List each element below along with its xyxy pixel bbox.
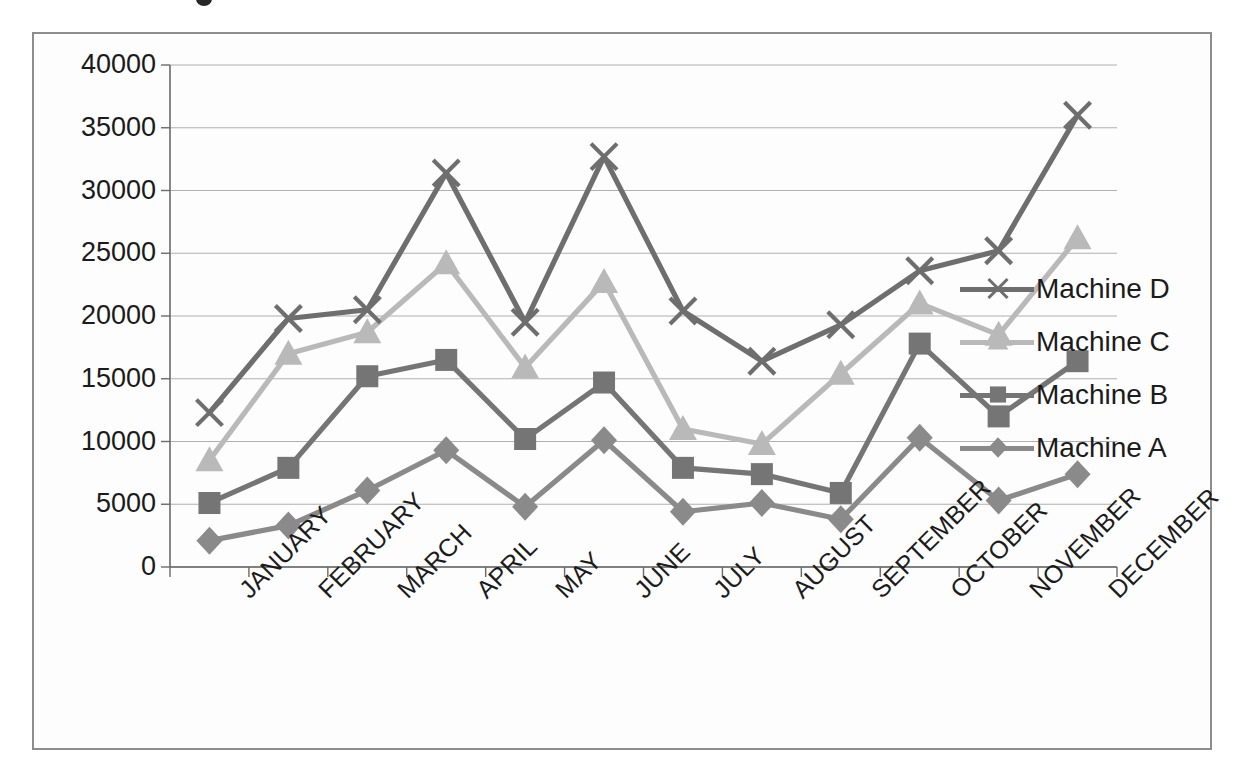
data-point-marker (749, 489, 775, 517)
data-point-marker (909, 333, 931, 355)
data-point-marker (590, 268, 618, 293)
legend-marker-icon (960, 435, 1034, 461)
legend-item-machine-a[interactable]: Machine A (960, 421, 1210, 474)
data-point-marker (593, 372, 615, 394)
legend-item-machine-d[interactable]: Machine D (960, 262, 1210, 315)
y-tick-label: 40000 (28, 51, 156, 78)
data-point-marker (990, 386, 1006, 402)
data-point-marker (672, 457, 694, 479)
series-machine-a (196, 424, 1090, 555)
legend-marker-icon (960, 276, 1034, 302)
data-point-marker (906, 289, 934, 314)
data-point-marker (988, 437, 1007, 458)
data-point-marker (354, 476, 380, 504)
data-point-marker (669, 415, 697, 440)
legend-item-label: Machine A (1036, 432, 1167, 464)
y-tick-label: 30000 (28, 177, 156, 204)
legend-item-label: Machine B (1036, 379, 1168, 411)
y-tick-label: 0 (28, 553, 156, 580)
chart-legend: Machine DMachine CMachine BMachine A (960, 262, 1210, 474)
data-point-marker (830, 482, 852, 504)
data-point-marker (277, 457, 299, 479)
y-tick-label: 10000 (28, 428, 156, 455)
legend-item-label: Machine C (1036, 326, 1170, 358)
legend-item-machine-c[interactable]: Machine C (960, 315, 1210, 368)
legend-marker-icon (960, 329, 1034, 355)
data-point-marker (356, 365, 378, 387)
data-point-marker (751, 463, 773, 485)
data-point-marker (198, 492, 220, 514)
data-point-marker (988, 331, 1009, 349)
data-point-marker (196, 527, 222, 555)
y-tick-label: 5000 (28, 490, 156, 517)
y-tick-label: 35000 (28, 114, 156, 141)
data-point-marker (435, 349, 457, 371)
legend-marker-icon (960, 382, 1034, 408)
data-point-marker (514, 428, 536, 450)
data-point-marker (433, 436, 459, 464)
legend-item-label: Machine D (1036, 273, 1170, 305)
legend-item-machine-b[interactable]: Machine B (960, 368, 1210, 421)
y-tick-label: 25000 (28, 239, 156, 266)
data-point-marker (1064, 224, 1092, 249)
y-tick-label: 15000 (28, 365, 156, 392)
y-tick-label: 20000 (28, 302, 156, 329)
